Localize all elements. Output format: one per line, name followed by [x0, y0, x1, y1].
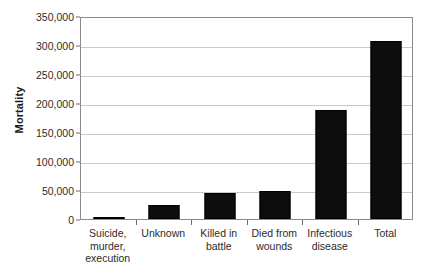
x-axis-category-label: Died from wounds — [247, 227, 303, 252]
bar-slot — [303, 18, 359, 219]
x-axis-tick-mark — [302, 220, 303, 225]
bar[interactable] — [315, 110, 346, 219]
x-axis-category-label: Total — [358, 227, 414, 240]
y-axis-tick-label: 250,000 — [36, 69, 74, 81]
y-axis-tick-label: 150,000 — [36, 127, 74, 139]
x-axis-category-label: Infectious disease — [302, 227, 358, 252]
y-axis-tick-label: 350,000 — [36, 11, 74, 23]
y-axis-tick-label: 200,000 — [36, 98, 74, 110]
y-axis-title-text: Mortality — [13, 87, 25, 134]
bar[interactable] — [149, 205, 180, 219]
bar[interactable] — [204, 193, 235, 219]
x-axis-category-label: Suicide, murder, execution — [80, 227, 136, 265]
x-axis-category-label: Killed in battle — [191, 227, 247, 252]
plot-area — [80, 17, 413, 220]
y-axis-tick-label: 300,000 — [36, 40, 74, 52]
bars-layer — [81, 18, 412, 219]
bar[interactable] — [93, 217, 124, 219]
bar[interactable] — [260, 191, 291, 219]
x-axis-category-label: Unknown — [136, 227, 192, 240]
bar-slot — [248, 18, 304, 219]
y-axis-tick-label: 50,000 — [42, 185, 74, 197]
bar-slot — [359, 18, 415, 219]
x-axis-tick-mark — [358, 220, 359, 225]
x-axis-tick-mark — [247, 220, 248, 225]
bar-chart: Mortality 050,000100,000150,000200,00025… — [0, 0, 430, 273]
x-axis-tick-mark — [191, 220, 192, 225]
bar[interactable] — [371, 41, 402, 219]
bar-slot — [81, 18, 137, 219]
x-axis-tick-mark — [136, 220, 137, 225]
x-axis-tick-labels: Suicide, murder, executionUnknownKilled … — [80, 227, 413, 273]
y-axis-tick-label: 100,000 — [36, 156, 74, 168]
bar-slot — [192, 18, 248, 219]
bar-slot — [137, 18, 193, 219]
y-axis-tick-label: 0 — [68, 214, 74, 226]
x-axis-ticks — [80, 220, 413, 225]
y-axis-tick-labels: 050,000100,000150,000200,000250,000300,0… — [26, 17, 80, 220]
